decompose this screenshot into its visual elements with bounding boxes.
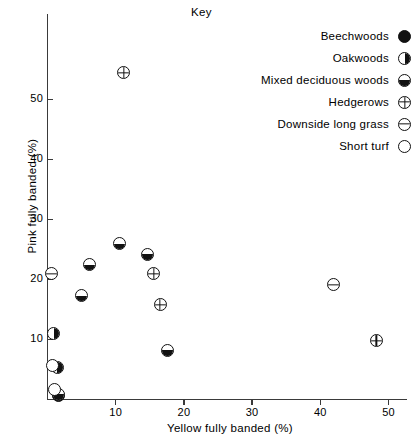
legend-item-mixed-deciduous-woods: Mixed deciduous woods: [161, 70, 411, 90]
data-point: [47, 327, 60, 340]
legend-item-symbol: [398, 96, 411, 109]
legend-item-label: Downside long grass: [277, 118, 389, 130]
marker-open-circle-icon: [398, 140, 411, 153]
data-point: [141, 248, 154, 261]
legend-item-symbol: [398, 74, 411, 87]
data-point: [75, 289, 88, 302]
legend-item-oakwoods: Oakwoods: [161, 48, 411, 68]
data-point: [83, 258, 96, 271]
data-point: [45, 267, 58, 280]
legend-item-symbol: [398, 140, 411, 153]
legend-item-short-turf: Short turf: [161, 136, 411, 156]
marker-filled-circle-icon: [398, 30, 411, 43]
legend-item-symbol: [398, 118, 411, 131]
legend-item-label: Mixed deciduous woods: [261, 74, 389, 86]
marker-cross-circle-icon: [398, 96, 411, 109]
marker-right-half-circle-icon: [398, 52, 411, 65]
data-point: [161, 344, 174, 357]
legend-item-label: Short turf: [339, 140, 389, 152]
marker-hbar-circle-icon: [398, 118, 411, 131]
legend-item-symbol: [398, 30, 411, 43]
marker-bottom-half-circle-icon: [398, 74, 411, 87]
data-point: [147, 267, 160, 280]
data-point: [370, 334, 383, 347]
legend-item-downside-long-grass: Downside long grass: [161, 114, 411, 134]
data-point: [113, 237, 126, 250]
legend-item-beechwoods: Beechwoods: [161, 26, 411, 46]
scatter-plot-figure: 1020304050 1020304050 Pink fully banded …: [0, 0, 419, 444]
data-point: [327, 278, 340, 291]
data-point: [48, 383, 61, 396]
data-point: [154, 298, 167, 311]
legend-item-symbol: [398, 52, 411, 65]
legend-title: Key: [191, 6, 212, 18]
legend-item-label: Beechwoods: [321, 30, 389, 42]
legend-item-label: Hedgerows: [329, 96, 389, 108]
data-point: [117, 66, 130, 79]
legend-item-label: Oakwoods: [333, 52, 389, 64]
legend-item-hedgerows: Hedgerows: [161, 92, 411, 112]
